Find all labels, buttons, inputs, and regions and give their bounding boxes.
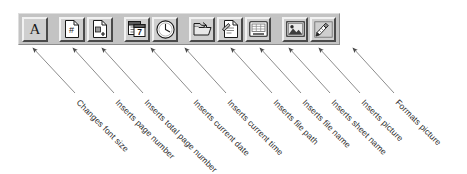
insert-file-name-button[interactable] bbox=[217, 17, 243, 42]
svg-text:7: 7 bbox=[137, 27, 142, 37]
calendar-date-icon: 7 bbox=[128, 20, 146, 38]
insert-date-button[interactable]: 7 bbox=[124, 17, 150, 42]
insert-sheet-name-button[interactable] bbox=[245, 17, 271, 42]
format-picture-icon bbox=[314, 21, 333, 38]
format-picture-button[interactable] bbox=[310, 17, 336, 42]
page-number-button[interactable]: # bbox=[59, 17, 85, 42]
font-size-icon: A bbox=[30, 22, 41, 37]
total-page-number-button[interactable] bbox=[87, 17, 113, 42]
total-page-number-icon bbox=[92, 20, 108, 38]
clock-time-icon bbox=[156, 20, 175, 39]
leader-line-10 bbox=[353, 48, 394, 93]
leader-line-9 bbox=[319, 48, 360, 93]
toolbar-separator bbox=[114, 17, 123, 42]
font-size-button[interactable]: A bbox=[22, 17, 48, 42]
toolbar-separator bbox=[272, 17, 281, 42]
leader-line-3 bbox=[102, 48, 143, 93]
leader-line-4 bbox=[151, 48, 192, 93]
leader-line-5 bbox=[185, 48, 226, 93]
callout-label-sheet-name: Inserts sheet name bbox=[329, 97, 388, 156]
annotated-toolbar-figure: A # 7 bbox=[0, 0, 467, 174]
insert-file-path-button[interactable] bbox=[189, 17, 215, 42]
insert-time-button[interactable] bbox=[152, 17, 178, 42]
leader-line-8 bbox=[289, 48, 330, 93]
insert-picture-button[interactable] bbox=[282, 17, 308, 42]
toolbar-separator bbox=[179, 17, 188, 42]
page-number-icon: # bbox=[64, 20, 80, 38]
header-footer-toolbar[interactable]: A # 7 bbox=[18, 13, 340, 45]
leader-line-2 bbox=[73, 48, 114, 93]
leader-line-7 bbox=[260, 48, 301, 93]
toolbar-separator bbox=[49, 17, 58, 42]
insert-picture-icon bbox=[286, 21, 305, 37]
file-name-icon bbox=[222, 20, 239, 38]
folder-path-icon bbox=[193, 21, 212, 37]
leader-line-6 bbox=[231, 48, 272, 93]
sheet-name-icon bbox=[249, 21, 268, 37]
leader-line-1 bbox=[33, 48, 75, 93]
svg-text:#: # bbox=[69, 25, 74, 35]
